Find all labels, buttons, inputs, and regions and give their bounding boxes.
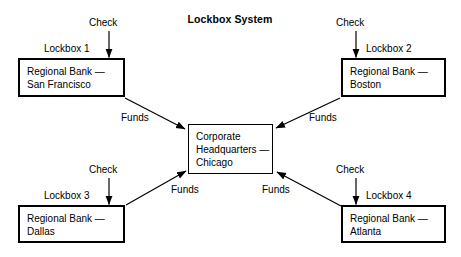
headquarters-box-chicago: Corporate Headquarters — Chicago xyxy=(188,124,273,174)
funds-label-lockbox-4: Funds xyxy=(262,184,290,195)
check-label-lockbox-1: Check xyxy=(89,17,117,28)
funds-label-lockbox-2: Funds xyxy=(309,112,337,123)
hq-line-2: Headquarters — xyxy=(196,143,272,156)
bank-box-dallas: Regional Bank — Dallas xyxy=(18,205,125,243)
check-label-lockbox-4: Check xyxy=(336,164,364,175)
bank-name-line-2: Atlanta xyxy=(350,225,444,238)
bank-name-line-1: Regional Bank — xyxy=(350,212,444,225)
diagram-title: Lockbox System xyxy=(155,13,305,25)
bank-name-line-2: Dallas xyxy=(27,225,123,238)
lockbox-label-4: Lockbox 4 xyxy=(366,190,412,201)
bank-name-line-1: Regional Bank — xyxy=(27,212,123,225)
hq-line-3: Chicago xyxy=(196,156,272,169)
funds-label-lockbox-1: Funds xyxy=(121,112,149,123)
hq-line-1: Corporate xyxy=(196,130,272,143)
check-label-lockbox-2: Check xyxy=(336,17,364,28)
lockbox-system-diagram: Lockbox System Check Check Check Check L… xyxy=(0,0,461,257)
bank-box-san-francisco: Regional Bank — San Francisco xyxy=(18,58,125,97)
check-label-lockbox-3: Check xyxy=(89,164,117,175)
lockbox-label-1: Lockbox 1 xyxy=(44,43,90,54)
bank-name-line-1: Regional Bank — xyxy=(27,65,123,78)
bank-name-line-2: San Francisco xyxy=(27,78,123,91)
bank-box-atlanta: Regional Bank — Atlanta xyxy=(341,205,446,243)
bank-box-boston: Regional Bank — Boston xyxy=(341,58,446,97)
lockbox-label-3: Lockbox 3 xyxy=(44,190,90,201)
bank-name-line-1: Regional Bank — xyxy=(350,65,444,78)
lockbox-label-2: Lockbox 2 xyxy=(366,43,412,54)
funds-label-lockbox-3: Funds xyxy=(171,184,199,195)
bank-name-line-2: Boston xyxy=(350,78,444,91)
